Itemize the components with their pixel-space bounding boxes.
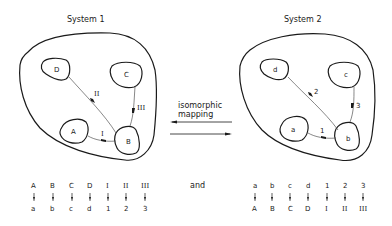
edge-3-label: 3	[356, 102, 360, 110]
node-C-label: C	[124, 71, 129, 79]
t2-bot-1: B	[270, 205, 275, 213]
node-A-label: A	[71, 128, 76, 136]
t2-top-3: d	[306, 182, 310, 190]
t2-bot-0: A	[252, 205, 257, 213]
mapping-label-line1: isomorphic	[178, 101, 222, 110]
edge-II-label: II	[94, 90, 100, 98]
t2-bot-5: II	[342, 205, 348, 213]
arrowhead-III-icon	[132, 108, 135, 113]
node-B-label: B	[126, 138, 131, 146]
correspondence-table-1: A B C D I II III a b c d 1 2 3	[31, 182, 150, 213]
t1-top-1: B	[50, 182, 55, 190]
t2-arrowheads-icon	[254, 197, 364, 200]
t2-top-0: a	[253, 182, 257, 190]
t2-top-1: b	[270, 182, 275, 190]
arrowhead-II-icon	[90, 98, 95, 103]
t1-bot-5: 2	[124, 205, 128, 213]
t1-bot-1: b	[50, 205, 55, 213]
t1-bot-0: a	[31, 205, 35, 213]
t2-bot-4: I	[325, 205, 328, 213]
t2-bot-3: D	[305, 205, 310, 213]
edge-1-label: 1	[320, 127, 324, 135]
arrow-left-icon	[170, 121, 177, 124]
and-label: and	[190, 181, 205, 190]
t1-bot-3: d	[87, 205, 91, 213]
system1-boundary	[20, 33, 157, 160]
t2-top-6: 3	[361, 182, 365, 190]
edge-I-label: I	[101, 130, 104, 138]
t1-top-4: I	[106, 182, 109, 190]
node-d-label: d	[273, 66, 277, 74]
mapping-label-line2: mapping	[178, 110, 213, 119]
correspondence-table-2: a b c d 1 2 3 A B C D I II III	[252, 182, 368, 213]
t1-bot-6: 3	[143, 205, 147, 213]
system2-boundary	[240, 34, 375, 161]
t1-top-6: III	[141, 182, 150, 190]
t1-top-0: A	[31, 182, 36, 190]
t1-top-2: C	[69, 182, 74, 190]
t1-top-5: II	[123, 182, 129, 190]
edge-2-label: 2	[314, 88, 318, 96]
t1-top-3: D	[87, 182, 92, 190]
node-c-label: c	[344, 71, 348, 79]
system1-title: System 1	[67, 15, 104, 24]
t1-bot-4: 1	[106, 205, 110, 213]
edge-III	[130, 87, 135, 126]
t2-top-5: 2	[343, 182, 347, 190]
edge-III-label: III	[137, 104, 146, 112]
arrowhead-1-icon	[321, 136, 326, 139]
node-a-label: a	[291, 126, 295, 134]
isomorphism-diagram: System 1 D C A B II III I isomorphic map…	[0, 0, 392, 226]
t1-bot-2: c	[69, 205, 73, 213]
edge-II	[69, 77, 116, 133]
t2-top-2: c	[288, 182, 292, 190]
node-D-label: D	[54, 66, 59, 74]
arrow-right-icon	[225, 133, 232, 136]
edge-2	[288, 77, 338, 130]
t2-top-4: 1	[325, 182, 329, 190]
t2-bot-6: III	[359, 205, 368, 213]
t2-bot-2: C	[288, 205, 293, 213]
t1-arrowheads-icon	[33, 197, 146, 200]
node-b-label: b	[346, 135, 351, 143]
arrowhead-2-icon	[308, 92, 313, 97]
arrowhead-I-icon	[101, 139, 106, 142]
system2-title: System 2	[284, 15, 321, 24]
